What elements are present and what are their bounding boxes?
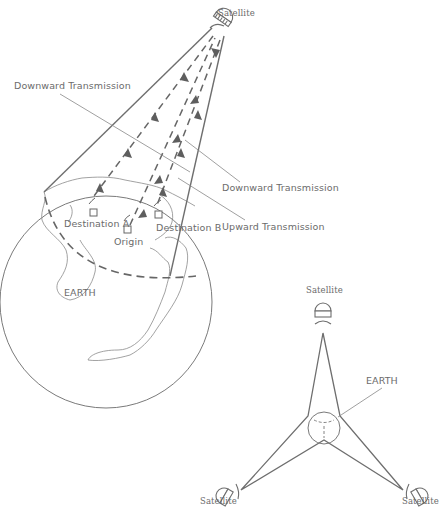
arrow-up-icon — [154, 175, 163, 184]
destination-b-label: Destination B — [156, 222, 221, 233]
earth-small-stations — [314, 420, 334, 438]
arrow-down-icon — [180, 72, 189, 82]
upward-transmission-label: Upward Transmission — [222, 221, 325, 232]
satellite-label-top: Satellite — [218, 8, 255, 18]
satellite-label-bottom-right: Satellite — [402, 496, 439, 506]
arrow-up-icon — [190, 95, 199, 104]
downward-path-b — [157, 40, 220, 205]
satellite-label-bottom-left: Satellite — [200, 496, 237, 506]
earth-label-bottom: EARTH — [366, 375, 398, 386]
satellite-constellation — [241, 333, 403, 490]
downward-transmission-label-right: Downward Transmission — [222, 182, 339, 193]
arrow-down-icon — [177, 148, 185, 158]
destination-a-label: Destination A — [64, 218, 129, 229]
satellite-label-bottom-top: Satellite — [306, 285, 343, 295]
arrow-down-icon — [194, 110, 202, 120]
destination-b-station-icon — [155, 211, 162, 218]
earth-leader-line — [338, 388, 382, 417]
leader-lines — [60, 94, 245, 220]
origin-label: Origin — [114, 236, 143, 247]
diagram-canvas — [0, 0, 442, 515]
arrow-up-icon — [138, 209, 147, 218]
downward-transmission-label-left: Downward Transmission — [14, 80, 131, 91]
satellite-bottom-top-icon — [315, 303, 331, 324]
destination-a-station-icon — [90, 209, 97, 216]
arrow-up-icon — [211, 48, 220, 58]
arrow-up-icon — [172, 134, 181, 143]
earth-label-top: EARTH — [64, 287, 96, 298]
